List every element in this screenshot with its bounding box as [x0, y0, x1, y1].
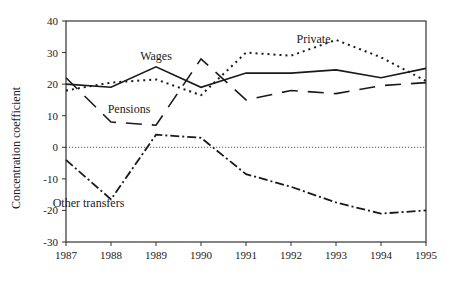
line-chart: 403020100-10-20-30 198719881989199019911… [0, 0, 450, 282]
series-wages [66, 67, 426, 88]
y-tick-label: 30 [47, 47, 59, 59]
x-tick-label: 1991 [235, 249, 257, 261]
x-tick-label: 1989 [145, 249, 168, 261]
x-tick-label: 1993 [325, 249, 348, 261]
label-wages: Wages [140, 49, 172, 63]
y-tick-label: -10 [43, 173, 58, 185]
series-lines [66, 40, 426, 214]
y-axis: 403020100-10-20-30 [43, 15, 66, 248]
label-pensions: Pensions [108, 102, 151, 116]
series-labels: WagesPrivatePensionsOther transfers [53, 32, 331, 210]
label-private: Private [297, 32, 331, 46]
y-tick-label: 20 [47, 78, 59, 90]
x-axis: 198719881989199019911992199319941995 [55, 242, 438, 261]
y-tick-label: -30 [43, 236, 58, 248]
x-tick-label: 1990 [190, 249, 213, 261]
x-tick-label: 1992 [280, 249, 302, 261]
y-tick-label: 10 [47, 110, 59, 122]
x-tick-label: 1987 [55, 249, 78, 261]
x-tick-label: 1995 [415, 249, 438, 261]
x-tick-label: 1994 [370, 249, 393, 261]
y-tick-label: 0 [53, 141, 59, 153]
x-tick-label: 1988 [100, 249, 123, 261]
y-axis-title: Concentration coefficient [9, 86, 23, 209]
y-tick-label: 40 [47, 15, 59, 27]
label-other-transfers: Other transfers [53, 196, 125, 210]
